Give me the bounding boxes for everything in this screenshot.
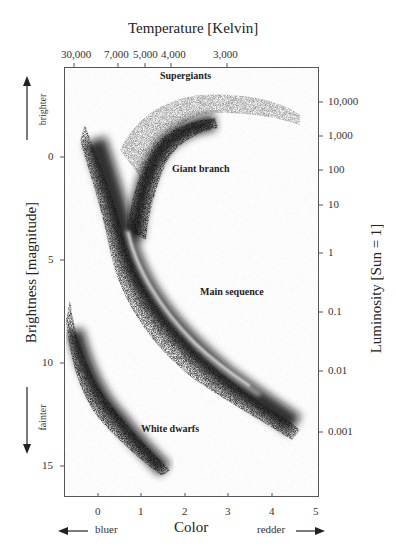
color-tick-4: 4 [269, 505, 275, 517]
lum-tick-1000: 1,000 [328, 129, 353, 141]
lum-tick-10: 10 [328, 198, 339, 210]
brightness-axis-title: Brightness [magnitude] [23, 188, 40, 358]
brighter-label: brighter [37, 85, 48, 135]
color-tick-1: 1 [138, 505, 144, 517]
label-main-sequence: Main sequence [200, 286, 264, 297]
color-tick-5: 5 [313, 505, 319, 517]
mag-tick-0: 0 [48, 150, 54, 162]
mag-tick-15: 15 [42, 459, 53, 471]
bluer-label: bluer [95, 523, 118, 535]
color-axis-title: Color [174, 519, 208, 536]
redder-label: redder [257, 523, 285, 535]
color-tick-0: 0 [95, 505, 101, 517]
lum-tick-10000: 10,000 [328, 95, 358, 107]
mag-tick-5: 5 [48, 253, 54, 265]
lum-tick-0.01: 0.01 [328, 364, 347, 376]
lum-tick-0.001: 0.001 [328, 425, 353, 437]
label-giant-branch: Giant branch [172, 163, 230, 174]
mag-tick-10: 10 [42, 356, 53, 368]
label-white-dwarfs: White dwarfs [141, 423, 199, 434]
hr-diagram-plot [0, 0, 396, 560]
lum-tick-1: 1 [328, 246, 334, 258]
lum-tick-100: 100 [328, 163, 345, 175]
luminosity-axis-title: Luminosity [Sun = 1] [368, 209, 385, 369]
color-tick-2: 2 [182, 505, 188, 517]
label-supergiants: Supergiants [160, 70, 211, 81]
lum-tick-0.1: 0.1 [328, 305, 342, 317]
fainter-label: fainter [37, 393, 48, 443]
color-tick-3: 3 [225, 505, 231, 517]
